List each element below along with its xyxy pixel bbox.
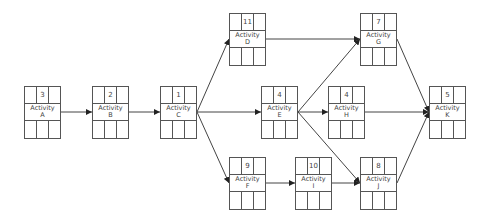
duration-cell: 4 <box>341 87 353 103</box>
slack-cell <box>442 121 454 138</box>
late-finish-cell <box>254 48 265 65</box>
node-bottom-row <box>230 48 265 65</box>
activity-letter: B <box>108 112 112 119</box>
node-label: Activity F <box>230 175 265 192</box>
activity-node-e[interactable]: 4 Activity E <box>261 86 298 139</box>
node-bottom-row <box>329 121 364 138</box>
duration-cell: 3 <box>37 87 49 103</box>
edge-c-f <box>197 112 229 183</box>
edge-j-k <box>397 112 429 183</box>
node-top-row: 11 <box>230 14 265 31</box>
activity-letter: J <box>378 183 380 190</box>
activity-letter: I <box>313 183 315 190</box>
late-finish-cell <box>117 121 128 138</box>
slack-cell <box>274 121 286 138</box>
activity-node-a[interactable]: 3 Activity A <box>24 86 61 139</box>
node-top-row: 10 <box>296 158 331 175</box>
activity-node-g[interactable]: 7 Activity G <box>360 13 397 66</box>
early-finish-cell <box>254 158 265 174</box>
early-finish-cell <box>286 87 297 103</box>
node-bottom-row <box>93 121 128 138</box>
late-finish-cell <box>454 121 465 138</box>
slack-cell <box>37 121 49 138</box>
duration-cell: 8 <box>373 158 385 174</box>
duration-cell: 1 <box>173 87 185 103</box>
early-finish-cell <box>254 14 265 30</box>
late-finish-cell <box>385 192 396 209</box>
early-start-cell <box>361 158 373 174</box>
slack-cell <box>242 48 254 65</box>
node-bottom-row <box>161 121 196 138</box>
late-finish-cell <box>385 48 396 65</box>
slack-cell <box>373 48 385 65</box>
node-bottom-row <box>262 121 297 138</box>
early-finish-cell <box>353 87 364 103</box>
early-finish-cell <box>385 158 396 174</box>
node-top-row: 4 <box>262 87 297 104</box>
slack-cell <box>173 121 185 138</box>
node-top-row: 3 <box>25 87 60 104</box>
late-start-cell <box>361 192 373 209</box>
activity-node-c[interactable]: 1 Activity C <box>160 86 197 139</box>
node-label: Activity H <box>329 104 364 121</box>
early-start-cell <box>361 14 373 30</box>
duration-cell: 2 <box>105 87 117 103</box>
activity-node-f[interactable]: 9 Activity F <box>229 157 266 210</box>
node-top-row: 7 <box>361 14 396 31</box>
activity-letter: E <box>277 112 281 119</box>
late-start-cell <box>230 48 242 65</box>
late-finish-cell <box>49 121 60 138</box>
late-start-cell <box>230 192 242 209</box>
slack-cell <box>242 192 254 209</box>
duration-cell: 5 <box>442 87 454 103</box>
slack-cell <box>105 121 117 138</box>
node-top-row: 1 <box>161 87 196 104</box>
node-bottom-row <box>296 192 331 209</box>
late-start-cell <box>430 121 442 138</box>
node-label: Activity D <box>230 31 265 48</box>
activity-letter: C <box>176 112 181 119</box>
early-start-cell <box>230 158 242 174</box>
duration-cell: 9 <box>242 158 254 174</box>
node-bottom-row <box>430 121 465 138</box>
late-finish-cell <box>254 192 265 209</box>
late-start-cell <box>262 121 274 138</box>
slack-cell <box>373 192 385 209</box>
activity-letter: K <box>445 112 449 119</box>
late-start-cell <box>296 192 308 209</box>
slack-cell <box>341 121 353 138</box>
late-start-cell <box>361 48 373 65</box>
early-finish-cell <box>117 87 128 103</box>
late-finish-cell <box>320 192 331 209</box>
activity-node-d[interactable]: 11 Activity D <box>229 13 266 66</box>
node-bottom-row <box>361 48 396 65</box>
activity-letter: F <box>246 183 250 190</box>
late-finish-cell <box>286 121 297 138</box>
early-finish-cell <box>454 87 465 103</box>
activity-node-j[interactable]: 8 Activity J <box>360 157 397 210</box>
activity-letter: H <box>344 112 349 119</box>
late-start-cell <box>161 121 173 138</box>
node-label: Activity A <box>25 104 60 121</box>
early-finish-cell <box>49 87 60 103</box>
node-top-row: 8 <box>361 158 396 175</box>
early-start-cell <box>93 87 105 103</box>
node-label: Activity I <box>296 175 331 192</box>
duration-cell: 10 <box>308 158 320 174</box>
early-start-cell <box>161 87 173 103</box>
node-bottom-row <box>25 121 60 138</box>
activity-node-k[interactable]: 5 Activity K <box>429 86 466 139</box>
edge-g-k <box>397 39 429 112</box>
activity-letter: D <box>245 39 250 46</box>
activity-node-h[interactable]: 4 Activity H <box>328 86 365 139</box>
node-label: Activity J <box>361 175 396 192</box>
node-label: Activity K <box>430 104 465 121</box>
early-start-cell <box>430 87 442 103</box>
node-top-row: 9 <box>230 158 265 175</box>
activity-node-i[interactable]: 10 Activity I <box>295 157 332 210</box>
duration-cell: 7 <box>373 14 385 30</box>
early-start-cell <box>262 87 274 103</box>
activity-node-b[interactable]: 2 Activity B <box>92 86 129 139</box>
node-label: Activity E <box>262 104 297 121</box>
node-top-row: 5 <box>430 87 465 104</box>
